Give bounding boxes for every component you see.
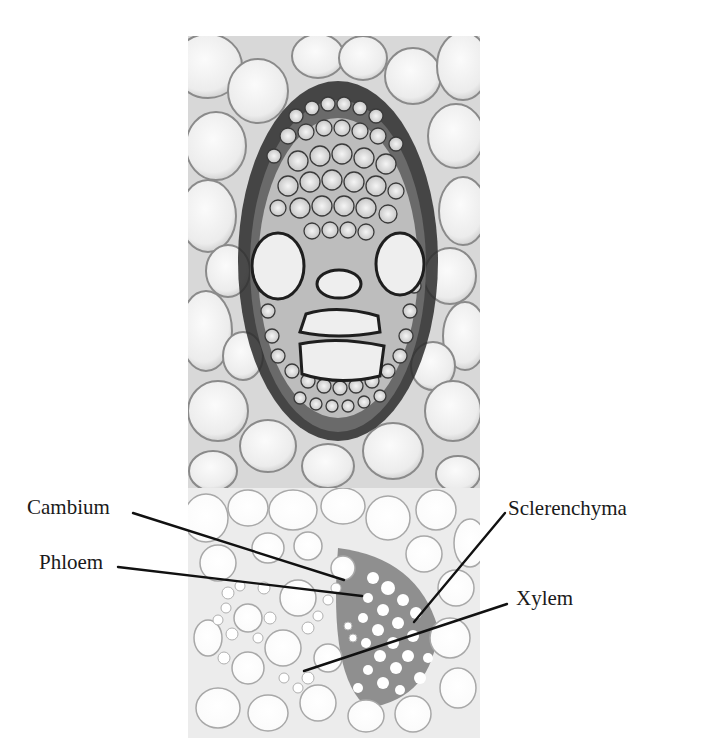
label-cambium: Cambium <box>27 497 110 518</box>
dicot-bundle-illustration <box>188 488 480 738</box>
label-xylem: Xylem <box>516 588 573 609</box>
label-sclerenchyma: Sclerenchyma <box>508 498 627 519</box>
label-phloem: Phloem <box>39 552 103 573</box>
monocot-bundle-illustration <box>188 36 480 488</box>
bottom-micrograph <box>188 488 480 738</box>
top-micrograph <box>188 36 480 488</box>
